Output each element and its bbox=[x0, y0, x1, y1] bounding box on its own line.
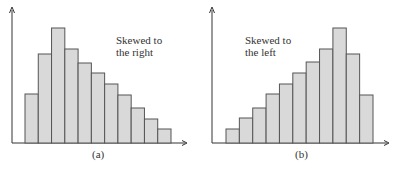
caption-a: (a) bbox=[92, 148, 104, 160]
histogram-bar bbox=[239, 118, 252, 143]
histogram-bar bbox=[158, 129, 171, 143]
annotation-a-line2: the right bbox=[116, 46, 162, 58]
annotation-b-line1: Skewed to bbox=[245, 34, 291, 46]
histogram-bar bbox=[38, 54, 51, 143]
histogram-a bbox=[10, 7, 188, 146]
histogram-bar bbox=[226, 129, 239, 143]
histogram-bar bbox=[266, 94, 279, 143]
histogram-b bbox=[210, 7, 390, 146]
annotation-a-line1: Skewed to bbox=[116, 34, 162, 46]
annotation-b-line2: the left bbox=[245, 46, 291, 58]
histogram-bar bbox=[105, 84, 118, 143]
histogram-bar bbox=[78, 63, 91, 143]
histogram-bar bbox=[25, 94, 38, 143]
histogram-bar bbox=[131, 108, 144, 143]
annotation-a: Skewed to the right bbox=[116, 34, 162, 58]
histogram-bar bbox=[65, 49, 78, 143]
histogram-bar bbox=[360, 95, 373, 143]
histogram-bar bbox=[144, 119, 157, 143]
histogram-figure bbox=[0, 0, 394, 171]
histogram-bar bbox=[306, 62, 319, 143]
histogram-bar bbox=[293, 73, 306, 143]
histogram-bar bbox=[91, 73, 104, 143]
caption-b: (b) bbox=[295, 148, 308, 160]
histogram-bar bbox=[279, 84, 292, 143]
histogram-bar bbox=[52, 28, 65, 143]
histogram-bar bbox=[320, 49, 333, 143]
annotation-b: Skewed to the left bbox=[245, 34, 291, 58]
histogram-bar bbox=[253, 108, 266, 143]
histogram-bar bbox=[333, 28, 346, 143]
histogram-bar bbox=[118, 95, 131, 143]
histogram-bar bbox=[346, 54, 359, 143]
